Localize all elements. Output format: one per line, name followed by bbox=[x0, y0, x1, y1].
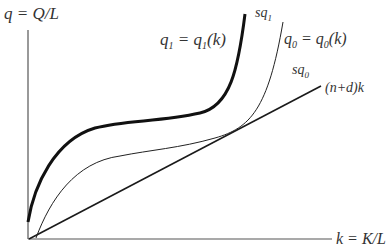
sq1-label-sub: 1 bbox=[267, 13, 272, 23]
depreciation-line-label: (n+d)k bbox=[325, 80, 364, 96]
q1-label-q: q bbox=[160, 30, 169, 49]
depreciation-line bbox=[29, 86, 321, 239]
q0-label-tail: (k) bbox=[329, 30, 347, 47]
q0-production-curve bbox=[36, 22, 283, 238]
q0-curve-label: q0 = q0(k) bbox=[284, 30, 347, 50]
q0-label-q: q bbox=[284, 30, 292, 47]
q0-label-eq: = q bbox=[297, 30, 324, 47]
sq0-label-sub: 0 bbox=[304, 70, 309, 80]
sq1-label-text: sq bbox=[255, 5, 267, 20]
q1-label-tail: (k) bbox=[207, 30, 226, 49]
sq0-label-text: sq bbox=[292, 62, 304, 77]
x-axis-label: k = K/L bbox=[336, 230, 386, 248]
y-axis-label: q = Q/L bbox=[4, 4, 59, 24]
q1-curve-label: q1 = q1(k) bbox=[160, 30, 226, 51]
sq1-label: sq1 bbox=[255, 5, 272, 23]
q1-label-eq: = q bbox=[174, 30, 202, 49]
sq0-label: sq0 bbox=[292, 62, 309, 80]
